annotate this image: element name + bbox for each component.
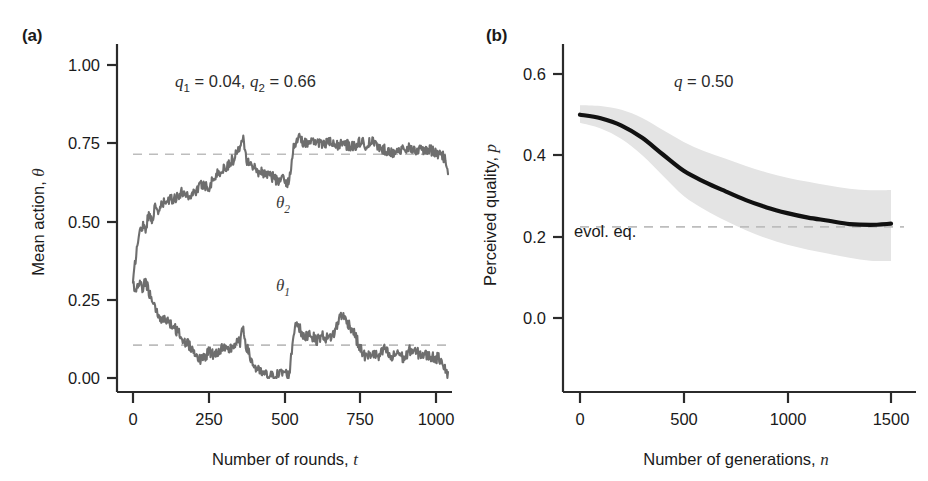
panel-a-theta1-trace [133,279,448,378]
panel-a-theta1-subscript: 1 [284,286,290,298]
panel-b-x-axis-title: Number of generations, n [643,450,829,469]
panel-b-q-equals: = 0.50 [683,72,734,90]
panel-a-theta1-symbol: θ [276,276,284,295]
panel-a-xtick-3: 750 [346,410,374,428]
panel-a-q2-equals: = 0.66 [265,72,316,90]
panel-a-y-axis-title-text: Mean action, [29,177,47,276]
panel-a-ytick-3: 0.75 [68,134,100,152]
panel-a-x-axis-title-symbol: t [353,450,359,469]
panel-a-theta2-symbol: θ [276,193,284,212]
panel-b-y-axis-title-text: Perceived quality, [481,152,499,286]
panel-b-ytick-1: 0.2 [523,228,546,246]
panel-a-y-axis-title: Mean action, θ [29,168,48,275]
panel-a-xtick-0: 0 [128,410,137,428]
panel-a-ytick-1: 0.25 [68,291,100,309]
panel-b-annotation: q = 0.50 [674,72,733,91]
panel-a-theta2-trace [133,134,448,282]
panel-b-xtick-3: 1500 [873,410,910,428]
panel-a-annotation: q1 = 0.04, q2 = 0.66 [175,72,316,94]
panel-a-y-ticks [107,65,117,378]
panel-b-x-ticks [580,392,891,403]
panel-a-theta2-subscript: 2 [284,203,290,215]
panel-b-x-axis-title-text: Number of generations, [643,450,820,468]
panel-a-theta1-label: θ1 [276,276,290,298]
panel-a-x-axis-title-text: Number of rounds, [212,450,353,468]
panel-b-y-axis-title: Perceived quality, p [481,144,500,286]
panel-a-x-ticks [133,392,436,403]
panel-b-xtick-2: 1000 [770,410,807,428]
panel-a-ytick-0: 0.00 [68,369,100,387]
panel-a-plot: 0.00 0.25 0.50 0.75 1.00 0 250 500 750 1… [0,0,464,481]
panel-a-x-axis-title: Number of rounds, t [212,450,359,469]
panel-b: (b) 0.0 0.2 0.4 0.6 [464,0,928,481]
panel-a-q1-equals: = 0.04, [190,72,250,90]
panel-a-xtick-1: 250 [195,410,223,428]
panel-b-evol-eq-label: evol. eq. [574,222,636,240]
panel-b-plot: 0.0 0.2 0.4 0.6 0 500 1000 1500 [464,0,928,481]
figure-container: (a) 0.00 0.25 0.50 0.75 1.00 [0,0,928,481]
panel-b-y-axis-title-symbol: p [481,144,500,154]
panel-a-xtick-4: 1000 [418,410,455,428]
panel-a-ytick-2: 0.50 [68,213,100,231]
panel-a: (a) 0.00 0.25 0.50 0.75 1.00 [0,0,464,481]
panel-b-ytick-2: 0.4 [523,146,546,164]
panel-b-ytick-3: 0.6 [523,65,546,83]
panel-a-ytick-4: 1.00 [68,56,100,74]
panel-a-y-axis-title-symbol: θ [29,168,48,176]
panel-b-ytick-0: 0.0 [523,309,546,327]
panel-b-xtick-0: 0 [575,410,584,428]
panel-b-xtick-1: 500 [670,410,698,428]
panel-a-theta2-label: θ2 [276,193,290,215]
panel-a-xtick-2: 500 [271,410,299,428]
panel-b-x-axis-title-symbol: n [820,450,829,469]
panel-b-y-ticks [553,74,563,318]
